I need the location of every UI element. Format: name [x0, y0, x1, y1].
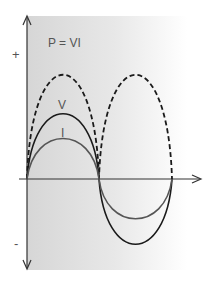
power-label: P = VI [48, 37, 81, 49]
diagram-canvas [0, 0, 215, 286]
background-panel [27, 16, 187, 270]
voltage-label: V [58, 99, 66, 111]
y-negative-label: - [14, 237, 18, 250]
current-label: I [61, 127, 64, 139]
y-positive-label: + [12, 48, 20, 61]
